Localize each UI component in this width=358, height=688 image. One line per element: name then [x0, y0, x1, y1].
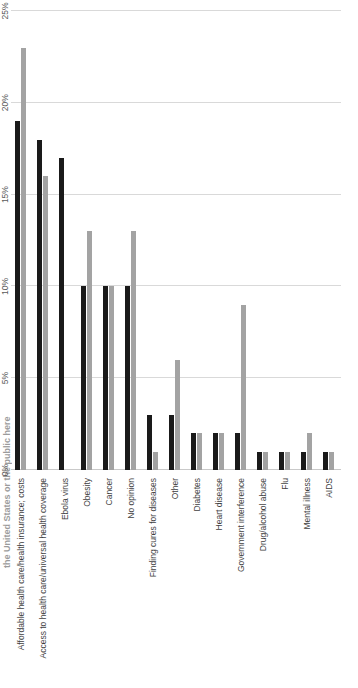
bar [87, 231, 92, 470]
bar [323, 452, 328, 470]
rotated-chart-wrapper: the United States or the public here Aff… [0, 0, 358, 688]
category-axis-label: Ebola virus [55, 478, 75, 520]
bar-group [33, 11, 53, 470]
category-axis-label: Access to health care/universal health c… [33, 478, 53, 659]
bar-group [121, 11, 141, 470]
bar-group [99, 11, 119, 470]
bar [153, 452, 158, 470]
bar [37, 140, 42, 470]
category-axis-label: Flu [275, 478, 295, 490]
category-axis-label: Cancer [99, 478, 119, 505]
bar [81, 286, 86, 470]
bar-group [275, 11, 295, 470]
bar [263, 452, 268, 470]
category-axis-label: Drug/alcohol abuse [253, 478, 273, 551]
category-axis-label: Other [165, 478, 185, 499]
category-axis-label: No opinion [121, 478, 141, 519]
category-axis-label: Finding cures for diseases [143, 478, 163, 577]
category-axis-label: Diabetes [187, 478, 207, 512]
bar [279, 452, 284, 470]
bar [329, 452, 334, 470]
bar-group [165, 11, 185, 470]
category-axis-label: Affordable health care/health insurance;… [11, 478, 31, 650]
category-axis-label: Obesity [77, 478, 97, 507]
bar-group [143, 11, 163, 470]
bar [307, 433, 312, 470]
bar-group [77, 11, 97, 470]
bar-series-container [11, 11, 341, 470]
bar-group [253, 11, 273, 470]
value-axis-tick: 10% [0, 278, 10, 295]
bar [109, 286, 114, 470]
bar [169, 415, 174, 470]
bar [103, 286, 108, 470]
bar-group [297, 11, 317, 470]
bar [301, 452, 306, 470]
bar [235, 433, 240, 470]
bar [241, 305, 246, 470]
bar [15, 121, 20, 470]
category-axis-label: Government interference [231, 478, 251, 572]
bar [197, 433, 202, 470]
bar-group [11, 11, 31, 470]
value-axis-tick: 20% [0, 94, 10, 111]
bar [43, 176, 48, 470]
bar [21, 48, 26, 470]
bar [131, 231, 136, 470]
bar-group [319, 11, 339, 470]
bar [147, 415, 152, 470]
category-axis-label: Heart disease [209, 478, 229, 530]
bar [219, 433, 224, 470]
category-axis-label: AIDS [319, 478, 339, 498]
bar [191, 433, 196, 470]
bar [213, 433, 218, 470]
plot-area: 0%5%10%15%20%25% [11, 11, 341, 470]
bar-group [55, 11, 75, 470]
bar [125, 286, 130, 470]
bar [285, 452, 290, 470]
category-axis: Affordable health care/health insurance;… [11, 474, 341, 688]
value-axis-tick: 5% [0, 372, 10, 384]
bar [59, 158, 64, 470]
value-axis-tick: 15% [0, 186, 10, 203]
value-axis-tick: 25% [0, 2, 10, 19]
bar-chart: the United States or the public here Aff… [0, 0, 358, 688]
bar-group [231, 11, 251, 470]
bar [175, 360, 180, 470]
bar-group [187, 11, 207, 470]
category-axis-label: Mental illness [297, 478, 317, 530]
bar-group [209, 11, 229, 470]
bar [257, 452, 262, 470]
